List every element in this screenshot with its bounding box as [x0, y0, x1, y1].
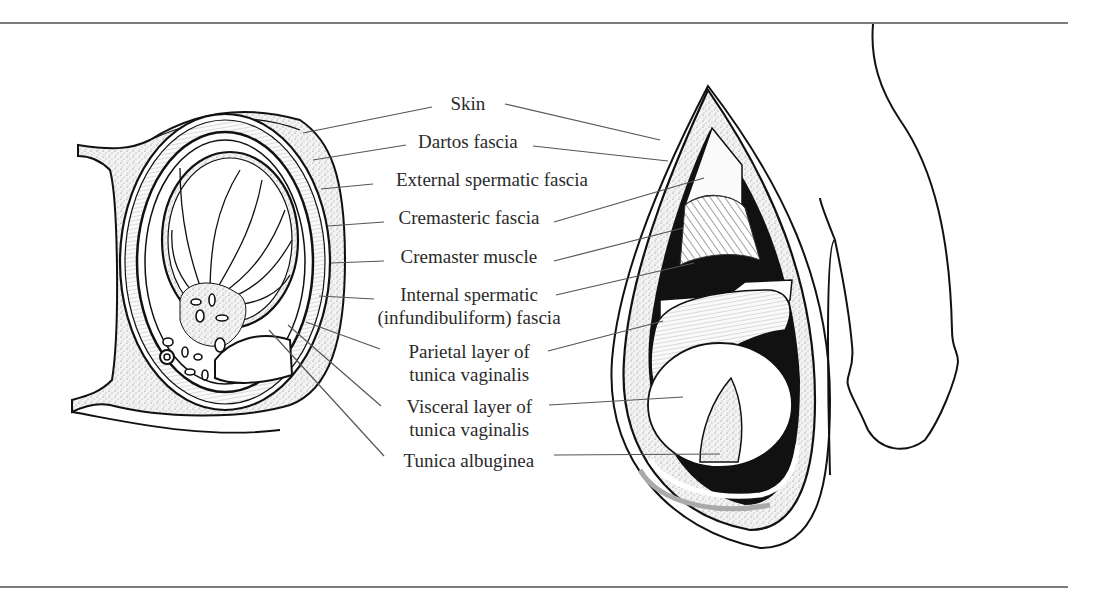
body-outline: [820, 24, 958, 475]
label-line: Skin: [451, 94, 486, 114]
label-line: Visceral layer of: [407, 397, 532, 417]
label-skin: Skin: [451, 94, 486, 114]
label-line: tunica vaginalis: [407, 420, 532, 440]
label-line: External spermatic fascia: [396, 170, 588, 190]
leader-line-dartos: [533, 146, 668, 161]
label-parietal: Parietal layer oftunica vaginalis: [409, 342, 530, 385]
dissection-view: [611, 86, 830, 548]
label-line: tunica vaginalis: [409, 365, 530, 385]
figure-stage: SkinDartos fasciaExternal spermatic fasc…: [0, 0, 1110, 593]
label-line: (infundibuliform) fascia: [378, 308, 561, 328]
leader-line-skin: [505, 104, 660, 140]
label-cremaster-muscle: Cremaster muscle: [401, 247, 538, 267]
label-external-spermatic: External spermatic fascia: [396, 170, 588, 190]
label-line: Dartos fascia: [418, 132, 518, 152]
leader-line-skin: [303, 107, 432, 133]
label-internal-spermatic: Internal spermatic(infundibuliform) fasc…: [378, 285, 561, 328]
label-albuginea: Tunica albuginea: [404, 451, 535, 471]
label-dartos: Dartos fascia: [418, 132, 518, 152]
label-visceral: Visceral layer oftunica vaginalis: [407, 397, 532, 440]
label-line: Parietal layer of: [409, 342, 530, 362]
label-cremasteric: Cremasteric fascia: [399, 208, 540, 228]
label-line: Tunica albuginea: [404, 451, 535, 471]
label-line: Internal spermatic: [378, 285, 561, 305]
cross-section: [72, 112, 345, 433]
label-line: Cremasteric fascia: [399, 208, 540, 228]
label-line: Cremaster muscle: [401, 247, 538, 267]
